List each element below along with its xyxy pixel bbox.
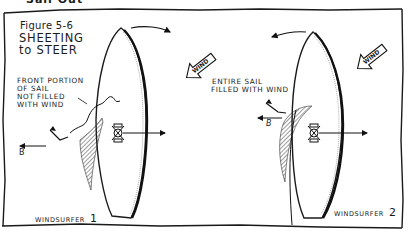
sail-1-clew-arrow	[50, 130, 68, 140]
sail-2-clew-arrow	[266, 103, 286, 113]
rider-icon-2	[308, 124, 320, 142]
caption-windsurfer-2: WINDSURFER 2	[334, 203, 396, 219]
figure-title-line2: to STEER	[19, 45, 77, 57]
caption-text: WINDSURFER	[334, 210, 384, 218]
caption-text: WINDSURFER	[35, 216, 85, 224]
turn-arrow-2	[272, 32, 306, 37]
annotation-right-line2: FILLED WITH WIND	[211, 86, 289, 93]
caption-number: 1	[90, 212, 97, 225]
caption-windsurfer-1: WINDSURFER 1	[35, 209, 97, 225]
annotation-leader-1	[78, 98, 87, 104]
caption-number: 2	[389, 206, 396, 219]
annotation-left-line4: WITH WIND	[17, 101, 64, 108]
cut-off-heading: Sail Out	[26, 0, 83, 5]
figure-number: Figure 5-6	[20, 21, 73, 31]
force-label-b-2: B	[266, 120, 272, 128]
rider-icon-1	[112, 124, 124, 142]
force-label-b-1: B	[19, 149, 25, 157]
turn-arrow-1	[131, 27, 170, 32]
board-1	[96, 28, 147, 218]
